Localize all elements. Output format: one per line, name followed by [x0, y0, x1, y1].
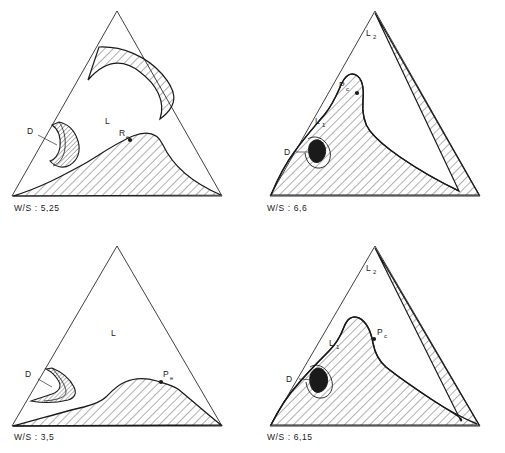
- label-plait-point-subscript: c: [384, 333, 387, 339]
- label-d: D: [286, 374, 292, 384]
- region-d-lens: [309, 140, 326, 163]
- panel-bottom-right: D L 2 L 1 P c W/S : 6,15: [253, 227, 505, 453]
- region-two-phase: [271, 13, 479, 195]
- label-plait-point: P: [339, 80, 345, 90]
- region-d-wedge: [31, 368, 75, 402]
- d-leader-line: [38, 379, 52, 387]
- label-liquid-upper-subscript: 2: [373, 34, 377, 40]
- label-liquid: L: [105, 116, 110, 126]
- plait-point-marker: [372, 337, 376, 341]
- label-liquid-lower: L: [329, 338, 334, 348]
- d-leader-line: [38, 135, 57, 145]
- label-plait-point: R: [119, 128, 125, 138]
- label-plait-point: P: [377, 327, 383, 337]
- region-lower-dome: [13, 133, 221, 196]
- caption-bottom-left: W/S : 3,5: [14, 432, 54, 453]
- label-liquid-lower: L: [315, 116, 320, 126]
- label-liquid: L: [111, 328, 116, 338]
- figure-ternary-phase-diagrams: D L R e W/S : 5,25: [0, 0, 505, 453]
- panel-bottom-left: D L P e W/S : 3,5: [0, 227, 252, 453]
- label-plait-point: P: [163, 369, 169, 379]
- label-d: D: [284, 147, 290, 157]
- label-d: D: [27, 126, 33, 136]
- region-d-lens: [50, 122, 79, 167]
- panel-top-right: D L 2 L 1 P c W/S : 6,6: [253, 0, 505, 226]
- region-upper-band: [88, 47, 174, 119]
- caption-top-left: W/S : 5,25: [14, 203, 60, 226]
- caption-top-right: W/S : 6,6: [267, 203, 307, 226]
- label-liquid-upper: L: [366, 28, 371, 38]
- label-plait-point-subscript: c: [346, 86, 349, 92]
- plait-point-marker: [355, 91, 359, 95]
- label-plait-point-subscript: e: [170, 375, 174, 381]
- plait-point-marker: [159, 380, 163, 384]
- panel-top-left: D L R e W/S : 5,25: [0, 0, 252, 226]
- label-liquid-upper: L: [366, 263, 371, 273]
- label-d: D: [25, 369, 31, 379]
- label-liquid-upper-subscript: 2: [373, 269, 377, 275]
- caption-bottom-right: W/S : 6,15: [267, 432, 313, 453]
